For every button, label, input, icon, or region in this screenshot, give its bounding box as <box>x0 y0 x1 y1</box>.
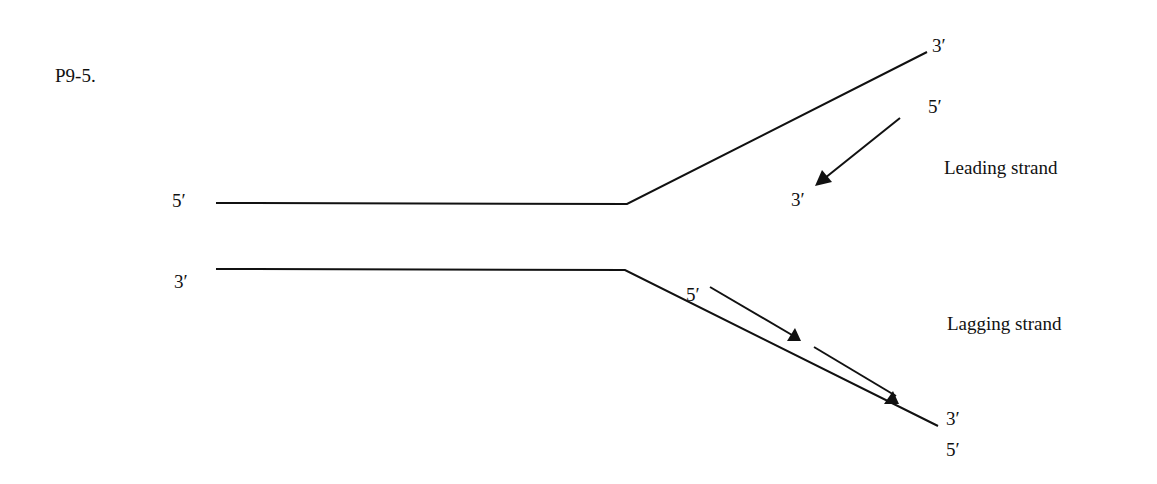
leading-strand-line <box>825 118 900 178</box>
leading-strand-arrowhead <box>815 170 832 186</box>
top-strand-right-end-label: 3′ <box>932 35 946 56</box>
lagging-fragment-1-arrowhead <box>787 328 801 341</box>
lagging-strand-start-label: 5′ <box>686 284 700 305</box>
lagging-fragment-2-line <box>814 347 896 396</box>
lagging-strand-end-label: 3′ <box>946 408 960 429</box>
lagging-fragment-1-line <box>710 287 792 335</box>
top-strand-left-end-label: 5′ <box>172 190 186 211</box>
leading-strand-label: Leading strand <box>944 157 1058 178</box>
replication-fork-diagram: P9-5. 5′ 3′ 3′ 5′ 5′ 3′ Leading strand 5… <box>0 0 1157 484</box>
bottom-strand-right-end-label: 5′ <box>946 439 960 460</box>
bottom-strand-left-end-label: 3′ <box>174 271 188 292</box>
lagging-strand-label: Lagging strand <box>947 313 1062 334</box>
leading-strand-start-label: 5′ <box>928 96 942 117</box>
leading-strand-end-label: 3′ <box>791 189 805 210</box>
bottom-template-strand <box>216 269 938 426</box>
problem-label: P9-5. <box>55 65 96 86</box>
